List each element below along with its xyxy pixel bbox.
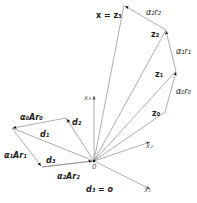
a0r0-step — [165, 72, 176, 112]
a0Ar0-label: α₀Ar₀ — [20, 114, 43, 122]
z2-vector — [94, 30, 166, 161]
z3-vector — [94, 5, 124, 161]
x1-axis-label: x₁ — [144, 187, 151, 194]
z1-label: z₁ — [155, 71, 163, 79]
a2Ar2-label: α₂Ar₂ — [57, 173, 80, 181]
z3-label: x = z₃ — [96, 12, 122, 20]
x2-axis-label: x₂ — [146, 143, 153, 150]
z0-label: z₀ — [152, 110, 160, 118]
d1-label: d₁ — [40, 131, 49, 139]
a0r0-label: α₀r₀ — [176, 88, 191, 96]
origin-label: 0 — [92, 164, 96, 171]
d3-zero-label: d₃ = o — [86, 186, 113, 194]
d2-label: d₂ — [72, 119, 81, 127]
d3-label: d₃ — [46, 157, 55, 165]
z0-vector — [94, 112, 165, 161]
z1-vector — [94, 71, 176, 161]
a1r1-step — [166, 31, 176, 71]
a2r2-label: α₂r₂ — [146, 9, 161, 17]
z2-label: z₂ — [151, 31, 159, 39]
vector-diagram — [0, 0, 197, 203]
a1r1-label: α₁r₁ — [176, 48, 191, 56]
a1Ar1-label: α₁Ar₁ — [4, 152, 27, 160]
x3-axis-label: x₃ — [84, 95, 91, 102]
